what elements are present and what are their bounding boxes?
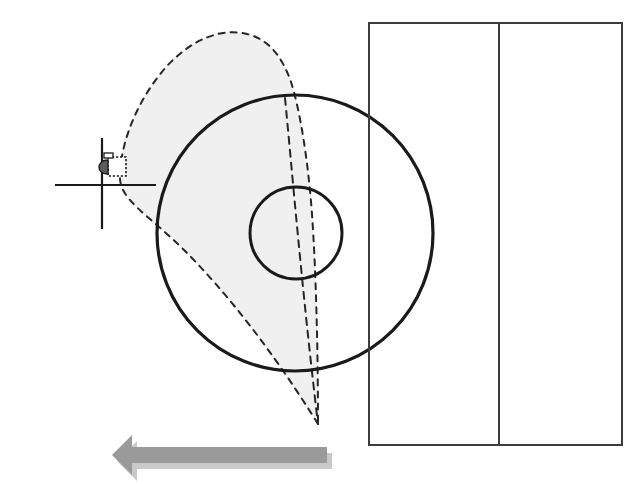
shaded-dashed-lobe	[120, 32, 318, 424]
camera-icon-top-nub	[104, 153, 113, 158]
diagram-svg	[0, 0, 643, 484]
direction-arrow-left-group	[112, 435, 332, 481]
right-rectangle-group	[369, 23, 622, 445]
diagram-canvas: Shaded dashed lobe region Large circle S…	[0, 0, 643, 484]
camera-icon-lens	[99, 160, 108, 174]
camera-icon-body	[108, 157, 126, 176]
right-rectangle	[369, 23, 622, 445]
